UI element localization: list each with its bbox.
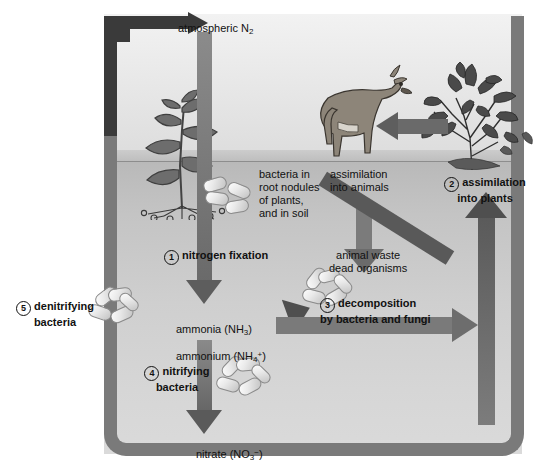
label-assimilation-into-animals: assimilation into animals xyxy=(330,168,389,194)
label-denitrifying-bacteria: 5denitrifying bacteria xyxy=(6,300,104,329)
label-assimilation-into-plants: 2assimilation into plants xyxy=(437,176,533,205)
atmospheric-n2-subscript: 2 xyxy=(249,27,253,36)
atmospheric-arrow-corner xyxy=(104,16,130,42)
label-nitrifying-bacteria: 4nitrifying bacteria xyxy=(136,365,218,394)
label-decomposition: 3decomposition by bacteria and fungi xyxy=(320,297,431,326)
label-nitrate: nitrate (NO3−) xyxy=(196,448,263,462)
label-ammonium: ammonium (NH4+) xyxy=(176,350,266,364)
label-atmospheric-n2: atmospheric N2 xyxy=(178,22,253,36)
nitrogen-fixation-arrow-shaft xyxy=(197,32,212,282)
nitrogen-fixation-arrow-head-icon xyxy=(186,280,222,304)
shrub-tree-icon xyxy=(408,46,535,174)
label-ammonia: ammonia (NH3) xyxy=(176,323,266,337)
bacteria-capsules-icon xyxy=(203,174,257,218)
label-bacteria-root-nodules: bacteria in root nodules of plants, and … xyxy=(259,168,320,220)
step-number-4: 4 xyxy=(144,366,159,381)
step-number-1: 1 xyxy=(164,250,179,265)
nitrifying-arrow-head-icon xyxy=(186,410,222,434)
step-number-2: 2 xyxy=(444,177,459,192)
decomposition-horizontal-arrow-head-icon xyxy=(452,308,478,342)
nitrogen-cycle-diagram: atmospheric N2 bacteria in root nodules … xyxy=(0,0,535,476)
label-animal-waste-dead-organisms: animal waste dead organisms xyxy=(329,249,407,275)
feeding-arrow-head-icon xyxy=(376,112,398,140)
label-nitrogen-fixation: 1nitrogen fixation xyxy=(164,249,268,265)
step-number-5: 5 xyxy=(16,301,31,316)
feeding-arrow-shaft xyxy=(396,119,448,134)
step-number-3: 3 xyxy=(320,298,335,313)
assimilation-plants-arrow-shaft xyxy=(478,215,495,425)
